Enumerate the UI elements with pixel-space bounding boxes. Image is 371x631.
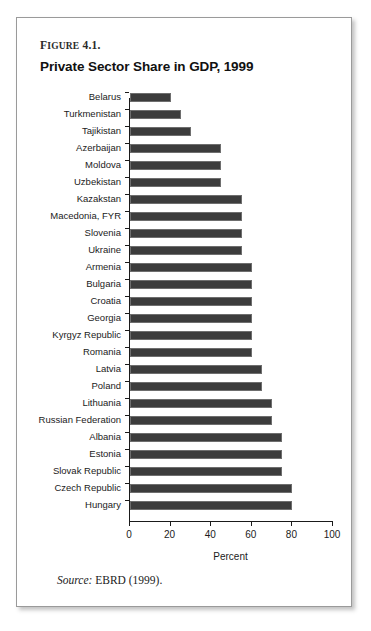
bar [130,212,242,221]
x-axis-tick [251,521,252,526]
x-axis-title: Percent [129,551,332,562]
y-axis-tick [125,194,129,195]
bar [130,246,242,255]
bar [130,399,272,408]
y-axis-tick [125,500,129,501]
y-axis-tick [125,92,129,93]
bar-row: Kyrgyz Republic [17,327,353,344]
bar [130,484,292,493]
bar-row: Croatia [17,293,353,310]
x-axis-tick-label: 60 [231,529,271,540]
bar [130,382,262,391]
bar-category-label: Czech Republic [1,482,121,493]
bar-category-label: Ukraine [1,244,121,255]
bar-row: Romania [17,344,353,361]
bar [130,229,242,238]
bar-row: Albania [17,429,353,446]
bar-category-label: Armenia [1,261,121,272]
y-axis-tick [125,415,129,416]
source-note: Source: EBRD (1999). [57,574,162,586]
bar [130,501,292,510]
bar-row: Slovak Republic [17,463,353,480]
page-title: Private Sector Share in GDP, 1999 [40,59,253,74]
bar-category-label: Poland [1,380,121,391]
y-axis-tick [125,483,129,484]
bar-row: Bulgaria [17,276,353,293]
y-axis-tick [125,449,129,450]
bar-row: Kazakstan [17,191,353,208]
y-axis-tick [125,347,129,348]
bar [130,433,282,442]
bar-category-label: Albania [1,431,121,442]
y-axis-tick [125,211,129,212]
y-axis-tick [125,245,129,246]
y-axis-tick [125,432,129,433]
y-axis-tick [125,126,129,127]
y-axis-tick [125,313,129,314]
bar-category-label: Slovak Republic [1,465,121,476]
x-axis-tick [170,521,171,526]
y-axis-tick [125,109,129,110]
bar [130,93,171,102]
bar-row: Georgia [17,310,353,327]
y-axis-tick [125,228,129,229]
bar [130,450,282,459]
bar [130,127,191,136]
bar-row: Macedonia, FYR [17,208,353,225]
bar [130,195,242,204]
bar-row: Lithuania [17,395,353,412]
y-axis-tick [125,279,129,280]
bar-row: Turkmenistan [17,106,353,123]
x-axis-line [129,521,332,522]
x-axis-tick-label: 100 [312,529,352,540]
bar [130,263,252,272]
x-axis-tick-label: 0 [109,529,149,540]
bar-category-label: Uzbekistan [1,176,121,187]
x-axis-tick-label: 80 [271,529,311,540]
y-axis-tick [125,177,129,178]
bar-category-label: Bulgaria [1,278,121,289]
figure-number-label: FIGURE 4.1. [40,39,101,51]
source-label: Source: [57,574,92,586]
bar-row: Hungary [17,497,353,514]
bar-row: Latvia [17,361,353,378]
bar-category-label: Turkmenistan [1,108,121,119]
bar-row: Poland [17,378,353,395]
bar-category-label: Georgia [1,312,121,323]
bar [130,314,252,323]
bar [130,280,252,289]
bar [130,110,181,119]
y-axis-tick [125,143,129,144]
bar-row: Ukraine [17,242,353,259]
bar-category-label: Estonia [1,448,121,459]
bar-category-label: Croatia [1,295,121,306]
bar [130,365,262,374]
bar-row: Belarus [17,89,353,106]
y-axis-tick [125,330,129,331]
y-axis-tick [125,160,129,161]
bar-row: Azerbaijan [17,140,353,157]
bar-category-label: Tajikistan [1,125,121,136]
bar-chart: BelarusTurkmenistanTajikistanAzerbaijanM… [17,80,353,540]
bar [130,297,252,306]
x-axis-tick-label: 40 [190,529,230,540]
x-axis-tick [210,521,211,526]
bar-row: Slovenia [17,225,353,242]
y-axis-tick [125,262,129,263]
bar-category-label: Latvia [1,363,121,374]
bar-category-label: Kyrgyz Republic [1,329,121,340]
x-axis-tick [129,521,130,526]
bar-category-label: Belarus [1,91,121,102]
y-axis-tick [125,398,129,399]
bar-category-label: Azerbaijan [1,142,121,153]
bar-row: Czech Republic [17,480,353,497]
x-axis-tick [291,521,292,526]
source-value: EBRD (1999). [92,574,162,586]
bar-category-label: Slovenia [1,227,121,238]
bar-category-label: Kazakstan [1,193,121,204]
figure-panel: FIGURE 4.1. Private Sector Share in GDP,… [16,17,352,607]
y-axis-tick [125,364,129,365]
bar [130,467,282,476]
y-axis-tick [125,466,129,467]
bar-category-label: Romania [1,346,121,357]
